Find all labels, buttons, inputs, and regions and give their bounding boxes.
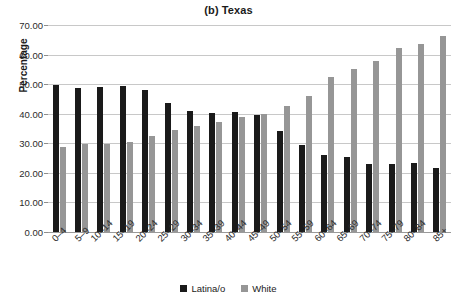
bar-white-5054 [284,106,290,232]
bar-group [115,25,137,232]
y-tick-label: 60.00 [19,49,43,60]
legend-swatch-icon [241,285,248,292]
bar-group [339,25,361,232]
bar-latina-o-1014 [97,87,103,232]
y-tick-label: 10.00 [19,197,43,208]
y-tick-label: 70.00 [19,20,43,31]
x-label-cell: 55–59 [294,234,316,278]
bar-latina-o-1519 [120,86,126,232]
x-label-cell: 35–39 [205,234,227,278]
bar-latina-o-5054 [277,131,283,232]
y-tick-mark [44,232,48,233]
bar-white-5559 [306,96,312,232]
bar-white-3034 [194,126,200,232]
bar-latina-o-3539 [209,113,215,232]
bar-group [272,25,294,232]
x-label-cell: 50–54 [272,234,294,278]
x-label-cell: 10–14 [93,234,115,278]
chart-container: (b) Texas Percentage 0.0010.0020.0030.00… [0,0,457,302]
bar-white-85+ [440,36,446,232]
bar-white-8084 [418,44,424,232]
x-label-cell: 65–69 [339,234,361,278]
chart-title: (b) Texas [0,4,457,16]
bar-group [182,25,204,232]
x-label-cell: 5–9 [70,234,92,278]
y-tick-label: 20.00 [19,167,43,178]
bar-group [361,25,383,232]
bar-group [384,25,406,232]
bar-latina-o-4044 [232,112,238,232]
legend-swatch-icon [180,285,187,292]
bar-white-59 [82,144,88,232]
x-label-cell: 85+ [429,234,451,278]
x-label-cell: 45–49 [250,234,272,278]
legend-label: White [252,283,276,294]
bar-group [160,25,182,232]
x-label-cell: 15–19 [115,234,137,278]
bar-latina-o-59 [75,88,81,232]
bar-white-6064 [328,77,334,232]
bar-group [250,25,272,232]
bar-latina-o-4549 [254,115,260,232]
bar-white-4044 [239,117,245,232]
x-label-cell: 80–84 [406,234,428,278]
y-tick-label: 0.00 [25,227,44,238]
bars-layer [48,25,451,232]
bar-latina-o-3034 [187,111,193,232]
bar-white-7074 [373,61,379,233]
x-label-cell: 20–24 [138,234,160,278]
bar-latina-o-5559 [299,145,305,232]
y-tick-label: 40.00 [19,108,43,119]
bar-group [48,25,70,232]
legend-item: White [241,283,276,294]
x-label-cell: 0–4 [48,234,70,278]
x-label-cell: 40–44 [227,234,249,278]
plot-area: 0.0010.0020.0030.0040.0050.0060.0070.00 [48,25,451,232]
bar-white-04 [60,147,66,232]
bar-group [138,25,160,232]
x-axis-labels: 0–45–910–1415–1920–2425–2930–3435–3940–4… [48,234,451,278]
bar-latina-o-04 [53,85,59,232]
bar-white-3539 [216,122,222,232]
bar-white-4549 [261,114,267,232]
bar-latina-o-85+ [433,168,439,232]
bar-group [317,25,339,232]
y-tick-label: 50.00 [19,79,43,90]
bar-white-6569 [351,69,357,232]
bar-group [70,25,92,232]
bar-group [406,25,428,232]
x-label-cell: 25–29 [160,234,182,278]
legend-item: Latina/o [180,283,225,294]
bar-group [93,25,115,232]
x-label-cell: 30–34 [182,234,204,278]
x-label-cell: 70–74 [361,234,383,278]
bar-latina-o-2024 [142,90,148,232]
x-label-cell: 60–64 [317,234,339,278]
bar-group [205,25,227,232]
bar-white-7579 [396,48,402,232]
y-tick-label: 30.00 [19,138,43,149]
bar-group [429,25,451,232]
bar-group [294,25,316,232]
bar-group [227,25,249,232]
bar-latina-o-2529 [165,103,171,232]
chart-legend: Latina/oWhite [0,283,457,294]
x-label-cell: 75–79 [384,234,406,278]
legend-label: Latina/o [191,283,225,294]
